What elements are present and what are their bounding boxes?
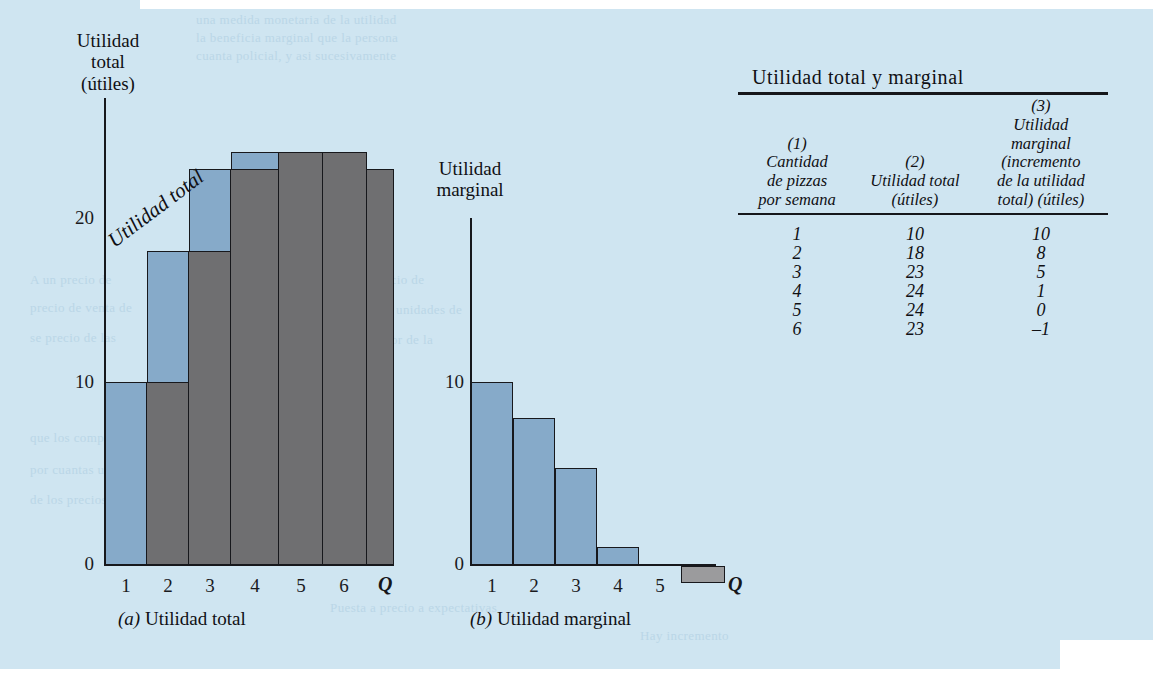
x-tick-label: 3 xyxy=(197,575,223,597)
x-tick-label: 3 xyxy=(563,575,589,597)
bar-1 xyxy=(105,382,147,565)
x-axis-title-b: Q xyxy=(728,573,742,596)
table-title: Utilidad total y marginal xyxy=(738,66,1108,89)
table-header-cantidad: (1) Cantidad de pizzas por semana xyxy=(738,97,856,214)
y-tick-label: 0 xyxy=(424,553,464,575)
utility-table: (1) Cantidad de pizzas por semana (2) Ut… xyxy=(738,97,1108,339)
figure-page: una medida monetaria de la utilidad la b… xyxy=(0,0,1153,683)
x-tick-label: 1 xyxy=(479,575,505,597)
ghost-text: precio de venta de xyxy=(30,300,132,316)
x-tick-label: 2 xyxy=(521,575,547,597)
header-number: (1) xyxy=(740,135,854,154)
table-row: 1 10 10 xyxy=(738,214,1108,244)
x-tick-label: 2 xyxy=(155,575,181,597)
x-tick-label: 5 xyxy=(288,575,314,597)
x-tick-label: 4 xyxy=(242,575,268,597)
cell-marginal: 0 xyxy=(974,301,1108,320)
y-tick-label: 0 xyxy=(54,553,94,575)
ghost-text: cuanta policial, y asi sucesivamente xyxy=(196,48,396,64)
header-line: por semana xyxy=(740,191,854,210)
header-number: (3) xyxy=(976,97,1106,116)
table-row: 5 24 0 xyxy=(738,301,1108,320)
y-tick-label: 10 xyxy=(424,371,464,393)
cell-cantidad: 2 xyxy=(738,244,856,263)
y-axis-title-line: total xyxy=(48,51,168,72)
table-row: 2 18 8 xyxy=(738,244,1108,263)
cell-total: 23 xyxy=(856,263,974,282)
bar-overlap-4 xyxy=(279,152,323,565)
table-header-row: (1) Cantidad de pizzas por semana (2) Ut… xyxy=(738,97,1108,214)
caption-a-text: Utilidad total xyxy=(145,608,246,629)
y-axis-title-b: Utilidad marginal xyxy=(405,158,535,201)
mbar-6-negative xyxy=(681,566,725,583)
cell-cantidad: 3 xyxy=(738,263,856,282)
cell-total: 23 xyxy=(856,320,974,339)
ghost-text: una medida monetaria de la utilidad xyxy=(196,12,397,28)
header-line: de pizzas xyxy=(740,172,854,191)
x-axis-title-a: Q xyxy=(378,573,392,596)
x-tick-label: 5 xyxy=(647,575,673,597)
cell-total: 18 xyxy=(856,244,974,263)
cell-marginal: 1 xyxy=(974,282,1108,301)
cell-total: 24 xyxy=(856,282,974,301)
header-line: (incremento xyxy=(976,153,1106,172)
table-header-utilidad-marginal: (3) Utilidad marginal (incremento de la … xyxy=(974,97,1108,214)
table-row: 3 23 5 xyxy=(738,263,1108,282)
caption-b-text: Utilidad marginal xyxy=(497,608,631,629)
page-edge-corner xyxy=(1060,640,1153,683)
page-edge-top xyxy=(140,0,1153,9)
mbar-4 xyxy=(597,547,639,565)
x-tick-label: 1 xyxy=(113,575,139,597)
header-line: Utilidad xyxy=(976,116,1106,135)
bar-overlap-6 xyxy=(367,169,394,565)
cell-marginal: 8 xyxy=(974,244,1108,263)
header-line: (útiles) xyxy=(858,191,972,210)
y-axis-title-line: Utilidad xyxy=(48,30,168,51)
ghost-text: Hay incremento xyxy=(640,628,729,644)
y-axis-title-line: (útiles) xyxy=(48,73,168,94)
caption-b: (b) Utilidad marginal xyxy=(470,608,631,630)
x-tick-label: 4 xyxy=(605,575,631,597)
cell-total: 24 xyxy=(856,301,974,320)
y-tick-label: 20 xyxy=(54,207,94,229)
table-title-rule xyxy=(738,92,1108,95)
ghost-text: A un precio de xyxy=(30,272,112,288)
caption-a-prefix: (a) xyxy=(118,608,140,629)
caption-a: (a) Utilidad total xyxy=(118,608,246,630)
cell-marginal: 10 xyxy=(974,214,1108,244)
y-tick-label: 10 xyxy=(54,371,94,393)
header-number: (2) xyxy=(858,153,972,172)
bar-overlap-2 xyxy=(189,251,231,565)
mbar-2 xyxy=(513,418,555,565)
table-row: 4 24 1 xyxy=(738,282,1108,301)
page-edge-bottom xyxy=(0,669,1153,683)
mbar-3 xyxy=(555,468,597,565)
table-header-utilidad-total: (2) Utilidad total (útiles) xyxy=(856,97,974,214)
ghost-text: la beneficia marginal que la persona xyxy=(196,30,398,46)
y-axis-title-line: marginal xyxy=(405,179,535,200)
caption-b-prefix: (b) xyxy=(470,608,492,629)
x-tick-label: 6 xyxy=(331,575,357,597)
header-line: marginal xyxy=(976,135,1106,154)
header-line: de la utilidad xyxy=(976,172,1106,191)
header-line: Utilidad total xyxy=(858,172,972,191)
table-row: 6 23 –1 xyxy=(738,320,1108,339)
header-line: Cantidad xyxy=(740,153,854,172)
cell-cantidad: 1 xyxy=(738,214,856,244)
cell-cantidad: 5 xyxy=(738,301,856,320)
cell-marginal: –1 xyxy=(974,320,1108,339)
mbar-1 xyxy=(471,382,513,565)
bar-overlap-3 xyxy=(231,169,279,565)
ghost-text: de los precios xyxy=(30,492,107,508)
bar-overlap-1 xyxy=(147,382,189,565)
y-axis-title-a: Utilidad total (útiles) xyxy=(48,30,168,94)
bar-overlap-5 xyxy=(323,152,367,565)
cell-total: 10 xyxy=(856,214,974,244)
cell-cantidad: 6 xyxy=(738,320,856,339)
cell-marginal: 5 xyxy=(974,263,1108,282)
utility-table-block: Utilidad total y marginal (1) Cantidad d… xyxy=(738,66,1108,339)
cell-cantidad: 4 xyxy=(738,282,856,301)
y-axis-title-line: Utilidad xyxy=(405,158,535,179)
header-line: total) (útiles) xyxy=(976,191,1106,210)
